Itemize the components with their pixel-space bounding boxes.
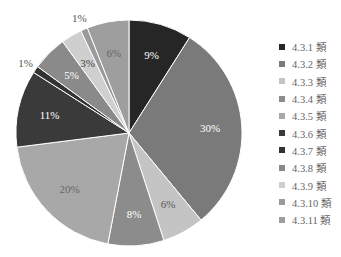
legend-swatch	[279, 61, 285, 67]
legend: 4.3.1 類4.3.2 類4.3.3 類4.3.4 類4.3.5 類4.3.6…	[279, 38, 331, 228]
pie-chart: 9%30%6%8%20%11%1%5%3%1%6%	[0, 0, 270, 257]
legend-swatch	[279, 113, 285, 119]
legend-item: 4.3.10 類	[279, 194, 331, 211]
legend-swatch	[279, 199, 285, 205]
slice-label: 11%	[40, 109, 60, 121]
legend-swatch	[279, 182, 285, 188]
slice-label: 6%	[161, 198, 176, 210]
legend-swatch	[279, 96, 285, 102]
legend-item: 4.3.11 類	[279, 211, 331, 228]
legend-label: 4.3.7 類	[292, 143, 326, 158]
legend-item: 4.3.7 類	[279, 142, 331, 159]
legend-label: 4.3.2 類	[292, 56, 326, 71]
legend-item: 4.3.9 類	[279, 176, 331, 193]
legend-swatch	[279, 44, 285, 50]
legend-item: 4.3.1 類	[279, 38, 331, 55]
legend-item: 4.3.3 類	[279, 73, 331, 90]
legend-item: 4.3.6 類	[279, 124, 331, 141]
slice-label: 1%	[18, 57, 33, 69]
legend-label: 4.3.6 類	[292, 126, 326, 141]
legend-label: 4.3.9 類	[292, 178, 326, 193]
legend-item: 4.3.2 類	[279, 55, 331, 72]
legend-swatch	[279, 130, 285, 136]
slice-label: 5%	[64, 69, 79, 81]
legend-swatch	[279, 165, 285, 171]
legend-label: 4.3.10 類	[292, 195, 331, 210]
legend-label: 4.3.11 類	[292, 212, 331, 227]
slice-label: 3%	[80, 57, 95, 69]
legend-label: 4.3.5 類	[292, 108, 326, 123]
legend-swatch	[279, 147, 285, 153]
slice-label: 6%	[106, 47, 121, 59]
legend-label: 4.3.8 類	[292, 160, 326, 175]
legend-label: 4.3.1 類	[292, 39, 326, 54]
legend-item: 4.3.8 類	[279, 159, 331, 176]
legend-swatch	[279, 217, 285, 223]
slice-label: 8%	[127, 208, 142, 220]
slice-label: 20%	[60, 183, 80, 195]
slice-label: 30%	[200, 122, 220, 134]
slice-label: 1%	[72, 12, 87, 24]
legend-swatch	[279, 78, 285, 84]
legend-item: 4.3.4 類	[279, 90, 331, 107]
legend-label: 4.3.3 類	[292, 74, 326, 89]
legend-label: 4.3.4 類	[292, 91, 326, 106]
slice-label: 9%	[144, 49, 159, 61]
legend-item: 4.3.5 類	[279, 107, 331, 124]
